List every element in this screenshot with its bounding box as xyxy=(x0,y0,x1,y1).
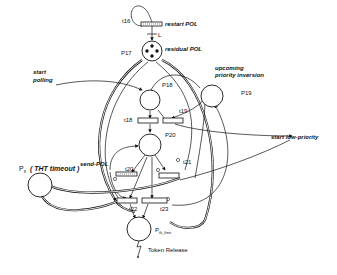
arc-t21-start-low xyxy=(180,140,290,180)
transition-t22 xyxy=(117,198,137,203)
arc-loop-p20 xyxy=(110,146,138,170)
place-p17 xyxy=(142,41,162,61)
arc-t23-ptk xyxy=(143,204,148,218)
label-t23: t23 xyxy=(160,206,169,212)
place-p19 xyxy=(201,85,223,107)
label-t20: t20 xyxy=(125,166,134,172)
label-send-pol: send-POL xyxy=(80,161,109,167)
arc-p17-t22 xyxy=(105,62,148,200)
label-polling: polling xyxy=(32,77,53,83)
label-p17: P17 xyxy=(121,50,132,56)
label-p8: P8 xyxy=(19,165,27,174)
transition-t23 xyxy=(142,198,167,203)
label-t22: t22 xyxy=(129,206,138,212)
label-start-low-priority: start low-priority xyxy=(271,134,319,140)
label-tht-timeout: ( THT timeout ) xyxy=(30,165,80,173)
label-t21: t21 xyxy=(183,159,192,165)
label-ptk-free: Ptk_free xyxy=(155,227,172,235)
label-p18: P18 xyxy=(162,82,173,88)
label-t18: t18 xyxy=(124,117,133,123)
arc-start-polling xyxy=(56,81,142,90)
transition-t19 xyxy=(163,118,183,123)
place-p18 xyxy=(140,90,160,110)
label-restart-pol: restart POL xyxy=(165,21,198,27)
label-p20: P20 xyxy=(165,132,176,138)
label-token-release: Token Release xyxy=(148,247,188,253)
label-residual-pol: residual POL xyxy=(165,46,202,52)
petri-net-canvas: t16 restart POL L P17 residual POL start… xyxy=(0,0,337,275)
arc-p20-t21 xyxy=(155,155,165,170)
transition-t18 xyxy=(138,118,158,123)
label-t16: t16 xyxy=(122,18,131,24)
arc-p19-t19 xyxy=(172,98,205,118)
lightning-icon xyxy=(137,241,141,256)
label-arc-weight: L xyxy=(158,32,162,38)
label-priority-inversion: priority inversion xyxy=(214,72,264,78)
label-p19: P19 xyxy=(241,90,252,96)
label-t19: t19 xyxy=(179,108,188,114)
place-p8 xyxy=(28,173,52,197)
place-p20 xyxy=(139,134,161,156)
label-start: start xyxy=(33,69,47,75)
place-ptk-free xyxy=(127,217,151,241)
double-arc-p8-t22 xyxy=(40,192,120,210)
label-upcoming: upcoming xyxy=(215,65,244,71)
arc-p20-t20 xyxy=(132,155,145,172)
petri-net-diagram: t16 restart POL L P17 residual POL start… xyxy=(0,0,337,275)
transition-t21 xyxy=(159,173,179,178)
